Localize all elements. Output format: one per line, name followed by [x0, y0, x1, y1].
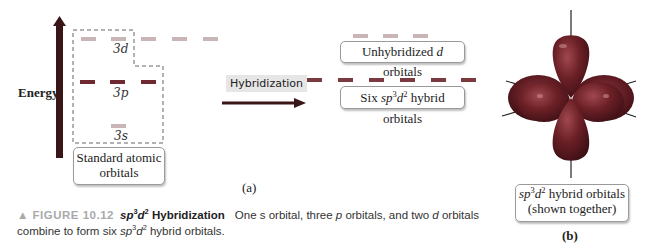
orbital-3s-label: 3s	[114, 129, 128, 143]
hybrid-orbital-1	[307, 78, 322, 82]
caption-text-5: hybrid orbitals.	[147, 225, 225, 237]
unhybridized-d-2	[383, 34, 398, 38]
orbital-3p-3	[141, 80, 156, 84]
orbital-3d-1	[81, 37, 96, 41]
title-sp: sp	[120, 209, 133, 221]
orbital-3s	[111, 124, 126, 128]
standard-box-line2: orbitals	[74, 165, 164, 180]
orbital-3p-label: 3p	[113, 86, 128, 100]
caption-text-1: One s orbital, three	[235, 209, 336, 221]
unhybridized-suffix: orbitals	[383, 64, 422, 79]
hybrid-orbital-6	[461, 78, 476, 82]
sp3d2-orbitals-icon	[500, 10, 640, 180]
figure-title: sp3d2 Hybridization	[120, 209, 225, 221]
hybridization-arrow-icon	[222, 98, 306, 108]
unhybridized-prefix: Unhybridized	[362, 44, 437, 59]
orbital-3d-3	[141, 37, 156, 41]
standard-box-line1: Standard atomic	[74, 150, 164, 165]
orbital-3d-4	[172, 37, 187, 41]
box-suffix: hybrid orbitals	[546, 186, 625, 201]
hybridization-label: Hybridization	[226, 75, 307, 92]
figure-number: ▲ FIGURE 10.12	[17, 209, 114, 221]
energy-axis-label: Energy	[18, 85, 58, 101]
hybrid-orbital-3	[369, 78, 384, 82]
unhybridized-d-1	[353, 34, 368, 38]
orbital-3p-2	[110, 80, 125, 84]
unhybridized-orbitals-box: Unhybridized d orbitals	[340, 41, 465, 63]
figure-caption: ▲ FIGURE 10.12sp3d2 HybridizationOne s o…	[17, 207, 487, 239]
unhybridized-d: d	[437, 44, 444, 59]
sp3d2-box-line2: (shown together)	[516, 201, 628, 216]
hybrid-prefix: Six	[360, 90, 381, 105]
orbital-3d-2	[111, 37, 126, 41]
title-d: d	[138, 209, 145, 221]
orbital-3d-5	[203, 37, 218, 41]
hybrid-orbitals-box: Six sp3d2 hybrid orbitals	[340, 86, 465, 109]
caption-text-3: orbitals	[439, 209, 479, 221]
orbital-3d-label: 3d	[113, 42, 128, 56]
hybrid-orbital-4	[400, 78, 415, 82]
sp3d2-orbitals-box: sp3d2 hybrid orbitals (shown together)	[515, 184, 629, 222]
panel-b-label: (b)	[562, 228, 578, 244]
panel-a-label: (a)	[242, 180, 256, 196]
unhybridized-d-3	[413, 34, 428, 38]
title-suffix: Hybridization	[149, 209, 225, 221]
hybrid-orbital-2	[338, 78, 353, 82]
caption-sp: sp	[120, 225, 132, 237]
orbital-3p-1	[80, 80, 95, 84]
box-sp: sp	[519, 186, 531, 201]
caption-text-2: orbitals, and two	[342, 209, 432, 221]
standard-orbitals-box: Standard atomic orbitals	[73, 147, 165, 185]
hybrid-sp: sp	[381, 90, 393, 105]
sp3d2-box-line1: sp3d2 hybrid orbitals	[516, 186, 628, 201]
hybrid-orbital-5	[431, 78, 446, 82]
caption-text-4: combine to form six	[17, 225, 120, 237]
